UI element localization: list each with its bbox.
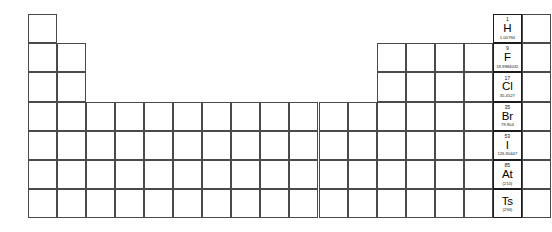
empty-cell-p6-g4[interactable]	[115, 160, 144, 189]
empty-cell-p4-g10[interactable]	[289, 102, 318, 131]
empty-cell-p5-g15[interactable]	[435, 131, 464, 160]
empty-cell-p2-g16[interactable]	[464, 43, 493, 72]
atomic-mass: (210)	[502, 182, 512, 186]
empty-cell-p5-g5[interactable]	[144, 131, 173, 160]
empty-cell-p6-g9[interactable]	[260, 160, 289, 189]
empty-cell-p3-g1[interactable]	[28, 72, 57, 101]
empty-cell-p5-g12[interactable]	[348, 131, 377, 160]
empty-cell-p2-g15[interactable]	[435, 43, 464, 72]
empty-cell-p7-g1[interactable]	[28, 189, 57, 218]
empty-cell-p5-g7[interactable]	[202, 131, 231, 160]
empty-cell-p4-g7[interactable]	[202, 102, 231, 131]
empty-cell-p2-g2[interactable]	[57, 43, 86, 72]
empty-cell-p5-g13[interactable]	[377, 131, 406, 160]
empty-cell-p4-g5[interactable]	[144, 102, 173, 131]
empty-cell-p5-g6[interactable]	[173, 131, 202, 160]
empty-cell-p7-g16[interactable]	[464, 189, 493, 218]
empty-cell-p6-g6[interactable]	[173, 160, 202, 189]
empty-cell-p4-g18[interactable]	[522, 102, 551, 131]
empty-cell-p5-g14[interactable]	[406, 131, 435, 160]
empty-cell-p2-g1[interactable]	[28, 43, 57, 72]
element-symbol: Ts	[502, 196, 513, 208]
empty-cell-p6-g15[interactable]	[435, 160, 464, 189]
empty-cell-p4-g9[interactable]	[260, 102, 289, 131]
element-cell-astatine[interactable]: 85At(210)	[493, 160, 522, 189]
empty-cell-p4-g14[interactable]	[406, 102, 435, 131]
empty-cell-p4-g4[interactable]	[115, 102, 144, 131]
empty-cell-p4-g16[interactable]	[464, 102, 493, 131]
empty-cell-p6-g5[interactable]	[144, 160, 173, 189]
empty-cell-p2-g18[interactable]	[522, 43, 551, 72]
empty-cell-p4-g2[interactable]	[57, 102, 86, 131]
empty-cell-p3-g2[interactable]	[57, 72, 86, 101]
empty-cell-p6-g12[interactable]	[348, 160, 377, 189]
empty-cell-p6-g10[interactable]	[289, 160, 318, 189]
empty-cell-p7-g4[interactable]	[115, 189, 144, 218]
empty-cell-p1-g1[interactable]	[28, 14, 57, 43]
empty-cell-p5-g2[interactable]	[57, 131, 86, 160]
empty-cell-p4-g15[interactable]	[435, 102, 464, 131]
empty-cell-p7-g13[interactable]	[377, 189, 406, 218]
empty-cell-p7-g12[interactable]	[348, 189, 377, 218]
periodic-table: 1H1.007949F18.998403217Cl35.452735Br79.9…	[0, 0, 552, 232]
empty-cell-p4-g3[interactable]	[86, 102, 115, 131]
empty-cell-p7-g15[interactable]	[435, 189, 464, 218]
empty-cell-p4-g8[interactable]	[231, 102, 260, 131]
empty-cell-p5-g16[interactable]	[464, 131, 493, 160]
empty-cell-p6-g14[interactable]	[406, 160, 435, 189]
empty-cell-p5-g1[interactable]	[28, 131, 57, 160]
empty-cell-p2-g13[interactable]	[377, 43, 406, 72]
element-cell-bromine[interactable]: 35Br79.904	[493, 102, 522, 131]
empty-cell-p3-g16[interactable]	[464, 72, 493, 101]
empty-cell-p5-g11[interactable]	[319, 131, 348, 160]
empty-cell-p4-g6[interactable]	[173, 102, 202, 131]
empty-cell-p3-g18[interactable]	[522, 72, 551, 101]
empty-cell-p6-g3[interactable]	[86, 160, 115, 189]
element-cell-tennessine[interactable]: Ts(294)	[493, 189, 522, 218]
empty-cell-p7-g10[interactable]	[289, 189, 318, 218]
empty-cell-p7-g14[interactable]	[406, 189, 435, 218]
element-symbol: H	[503, 23, 511, 35]
empty-cell-p6-g1[interactable]	[28, 160, 57, 189]
empty-cell-p3-g15[interactable]	[435, 72, 464, 101]
empty-cell-p7-g6[interactable]	[173, 189, 202, 218]
empty-cell-p6-g18[interactable]	[522, 160, 551, 189]
empty-cell-p7-g9[interactable]	[260, 189, 289, 218]
atomic-mass: 1.00794	[500, 36, 515, 40]
empty-cell-p5-g9[interactable]	[260, 131, 289, 160]
empty-cell-p7-g18[interactable]	[522, 189, 551, 218]
element-cell-chlorine[interactable]: 17Cl35.4527	[493, 72, 522, 101]
element-symbol: Br	[502, 111, 513, 123]
empty-cell-p6-g7[interactable]	[202, 160, 231, 189]
empty-cell-p6-g8[interactable]	[231, 160, 260, 189]
empty-cell-p7-g5[interactable]	[144, 189, 173, 218]
element-cell-iodine[interactable]: 53I126.90447	[493, 131, 522, 160]
element-symbol: I	[506, 140, 509, 152]
empty-cell-p3-g13[interactable]	[377, 72, 406, 101]
empty-cell-p5-g8[interactable]	[231, 131, 260, 160]
empty-cell-p4-g1[interactable]	[28, 102, 57, 131]
empty-cell-p4-g13[interactable]	[377, 102, 406, 131]
empty-cell-p7-g8[interactable]	[231, 189, 260, 218]
empty-cell-p6-g11[interactable]	[319, 160, 348, 189]
empty-cell-p6-g16[interactable]	[464, 160, 493, 189]
empty-cell-p7-g11[interactable]	[319, 189, 348, 218]
element-symbol: Cl	[502, 81, 512, 93]
element-cell-hydrogen[interactable]: 1H1.00794	[493, 14, 522, 43]
empty-cell-p5-g4[interactable]	[115, 131, 144, 160]
empty-cell-p5-g10[interactable]	[289, 131, 318, 160]
empty-cell-p5-g18[interactable]	[522, 131, 551, 160]
empty-cell-p7-g2[interactable]	[57, 189, 86, 218]
empty-cell-p3-g14[interactable]	[406, 72, 435, 101]
empty-cell-p7-g3[interactable]	[86, 189, 115, 218]
empty-cell-p6-g13[interactable]	[377, 160, 406, 189]
empty-cell-p2-g14[interactable]	[406, 43, 435, 72]
empty-cell-p5-g3[interactable]	[86, 131, 115, 160]
empty-cell-p1-g18[interactable]	[522, 14, 551, 43]
empty-cell-p4-g11[interactable]	[319, 102, 348, 131]
empty-cell-p4-g12[interactable]	[348, 102, 377, 131]
atomic-mass: 79.904	[501, 123, 514, 127]
empty-cell-p6-g2[interactable]	[57, 160, 86, 189]
empty-cell-p7-g7[interactable]	[202, 189, 231, 218]
element-cell-fluorine[interactable]: 9F18.9984032	[493, 43, 522, 72]
